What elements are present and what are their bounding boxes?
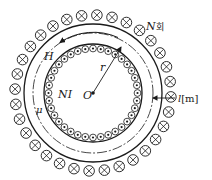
cross-conductor-icon — [166, 92, 177, 103]
cross-conductor-icon — [99, 165, 110, 176]
dot-conductor-icon — [128, 112, 135, 119]
dot-conductor-icon — [112, 128, 119, 135]
cross-conductor-icon — [121, 17, 132, 28]
path-length-label: l[m] — [178, 93, 199, 104]
dot-conductor-icon — [105, 48, 112, 55]
cross-conductor-icon — [25, 41, 36, 52]
dot-conductor-icon — [48, 74, 55, 81]
dot-conductor-icon — [128, 67, 135, 74]
dot-conductor-icon — [74, 131, 81, 138]
dot-conductor-icon — [51, 112, 58, 119]
cross-conductor-icon — [146, 35, 157, 46]
dot-conductor-icon — [46, 82, 53, 89]
radius-label: r — [100, 61, 106, 74]
cross-conductor-icon — [114, 161, 125, 172]
cross-conductor-icon — [158, 121, 169, 132]
permeability-label: μ — [36, 104, 43, 115]
dot-conductor-icon — [74, 48, 81, 55]
cross-conductor-icon — [107, 12, 118, 23]
cross-conductor-icon — [161, 61, 172, 72]
dot-conductor-icon — [118, 56, 125, 63]
dot-conductor-icon — [124, 61, 131, 68]
dot-conductor-icon — [56, 61, 63, 68]
dot-conductor-icon — [45, 90, 52, 97]
dot-conductor-icon — [61, 124, 68, 131]
cross-conductor-icon — [165, 76, 176, 87]
dot-conductor-icon — [46, 97, 53, 104]
cross-conductor-icon — [140, 146, 151, 157]
dot-conductor-icon — [133, 82, 140, 89]
cross-conductor-icon — [17, 54, 28, 65]
cross-conductor-icon — [41, 150, 52, 161]
dot-conductor-icon — [48, 105, 55, 112]
dot-conductor-icon — [82, 133, 89, 140]
dot-conductor-icon — [90, 134, 97, 141]
cross-conductor-icon — [163, 107, 174, 118]
cross-conductor-icon — [76, 11, 87, 22]
dot-conductor-icon — [51, 67, 58, 74]
dot-conductor-icon — [97, 46, 104, 53]
cross-conductor-icon — [128, 155, 139, 166]
cross-conductor-icon — [61, 14, 72, 25]
dot-conductor-icon — [133, 97, 140, 104]
cross-conductor-icon — [48, 21, 59, 32]
dot-conductor-icon — [134, 90, 141, 97]
dot-conductor-icon — [61, 56, 68, 63]
field-label: H — [43, 50, 54, 63]
dot-conductor-icon — [105, 131, 112, 138]
cross-conductor-icon — [92, 10, 103, 21]
dot-conductor-icon — [90, 45, 97, 52]
cross-conductor-icon — [69, 163, 80, 174]
dot-conductor-icon — [67, 51, 74, 58]
field-direction-arrow — [60, 32, 118, 42]
cross-conductor-icon — [21, 128, 32, 139]
cross-conductor-icon — [54, 158, 65, 169]
cross-conductor-icon — [155, 48, 166, 59]
cross-conductor-icon — [11, 99, 22, 110]
cross-conductor-icon — [12, 69, 23, 80]
dot-conductor-icon — [131, 105, 138, 112]
dot-conductor-icon — [124, 118, 131, 125]
dot-conductor-icon — [131, 74, 138, 81]
cross-conductor-icon — [84, 166, 95, 177]
cross-conductor-icon — [10, 84, 21, 95]
toroid-diagram: N회 H NI r O μ l[m] — [0, 0, 212, 180]
dot-conductor-icon — [67, 128, 74, 135]
cross-conductor-icon — [14, 114, 25, 125]
cross-conductor-icon — [30, 140, 41, 151]
dot-conductor-icon — [56, 118, 63, 125]
dot-conductor-icon — [82, 46, 89, 53]
turns-label: N회 — [145, 20, 164, 33]
center-label: O — [83, 89, 92, 102]
cross-conductor-icon — [35, 30, 46, 41]
dot-conductor-icon — [118, 124, 125, 131]
mmf-label: NI — [57, 88, 73, 101]
cross-conductor-icon — [134, 25, 145, 36]
dot-conductor-icon — [97, 133, 104, 140]
cross-conductor-icon — [150, 134, 161, 145]
